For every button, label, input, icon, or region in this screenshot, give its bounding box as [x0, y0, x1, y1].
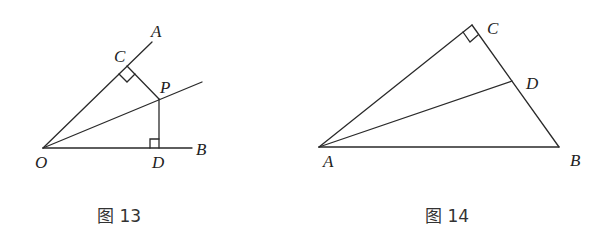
caption-figure-13: 图 13 — [97, 206, 141, 226]
right-angle-mark-C — [463, 32, 478, 42]
label-P: P — [159, 78, 170, 97]
right-angle-mark-C — [119, 74, 135, 82]
label-B: B — [196, 140, 207, 159]
label-O: O — [35, 153, 47, 172]
label-A: A — [150, 22, 162, 41]
label-C: C — [114, 47, 126, 66]
label-C: C — [487, 19, 499, 38]
geometry-diagrams: A C P B O D 图 13 C D B A 图 14 — [0, 0, 607, 241]
bisector-ray-OP — [43, 82, 202, 148]
segment-AD — [319, 81, 512, 147]
figure-14: C D B A 图 14 — [319, 19, 581, 226]
label-A: A — [322, 152, 334, 171]
caption-figure-14: 图 14 — [425, 206, 469, 226]
label-D: D — [525, 74, 539, 93]
label-D: D — [151, 153, 165, 172]
figure-13: A C P B O D 图 13 — [35, 22, 207, 226]
side-AC — [319, 25, 472, 147]
segment-PC — [127, 66, 159, 99]
ray-OA — [43, 42, 152, 148]
right-angle-mark-D — [150, 139, 159, 148]
side-CB — [472, 25, 559, 147]
label-B: B — [570, 151, 581, 170]
